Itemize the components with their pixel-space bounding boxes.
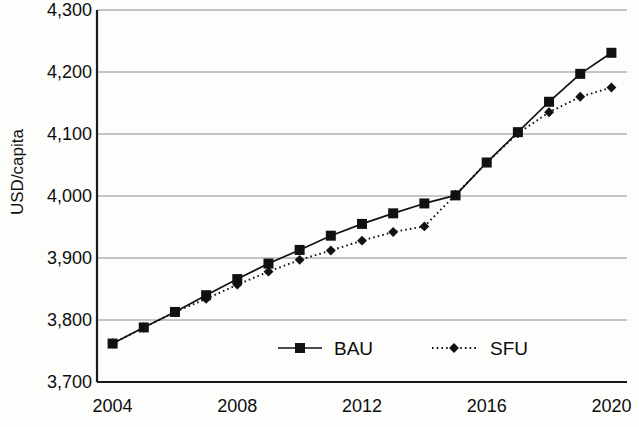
x-tick-label: 2012 xyxy=(342,396,382,417)
data-point-marker-diamond xyxy=(449,343,459,353)
data-point-marker-square xyxy=(544,97,554,107)
x-tick-label: 2020 xyxy=(591,396,631,417)
data-point-marker-diamond xyxy=(606,83,616,93)
data-point-marker-square xyxy=(295,343,305,353)
chart-figure: USD/capita 3,7003,8003,9004,0004,1004,20… xyxy=(0,0,639,427)
data-point-marker-diamond xyxy=(357,236,367,246)
x-tick-label: 2008 xyxy=(217,396,257,417)
data-point-marker-diamond xyxy=(575,92,585,102)
data-point-marker-square xyxy=(326,231,336,241)
gridlines xyxy=(97,10,627,320)
data-point-marker-diamond xyxy=(388,227,398,237)
data-point-marker-diamond xyxy=(295,255,305,265)
series-line xyxy=(113,53,612,344)
x-tick-label: 2004 xyxy=(93,396,133,417)
chart-plot-area: BAUSFU xyxy=(0,0,639,427)
data-point-marker-square xyxy=(388,208,398,218)
data-point-marker-square xyxy=(419,198,429,208)
data-series-layer xyxy=(108,48,617,349)
data-point-marker-square xyxy=(357,219,367,229)
chart-legend: BAUSFU xyxy=(278,338,528,359)
legend-label-bau: BAU xyxy=(334,338,373,359)
data-point-marker-diamond xyxy=(326,246,336,256)
series-bau xyxy=(108,48,617,349)
data-point-marker-square xyxy=(575,69,585,79)
data-point-marker-square xyxy=(295,245,305,255)
series-sfu xyxy=(108,83,617,349)
data-point-marker-square xyxy=(606,48,616,58)
x-tick-label: 2016 xyxy=(467,396,507,417)
legend-label-sfu: SFU xyxy=(490,338,528,359)
